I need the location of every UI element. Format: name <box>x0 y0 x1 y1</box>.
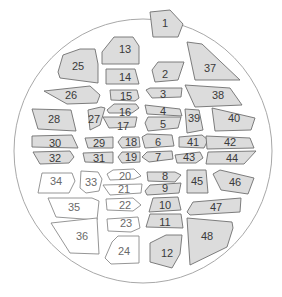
numbered-region-map: 1234567891011121314151617181920212223242… <box>0 0 282 297</box>
region-5: 5 <box>145 117 181 131</box>
region-32: 32 <box>33 151 74 164</box>
region-label: 2 <box>162 68 168 80</box>
regions-layer: 1234567891011121314151617181920212223242… <box>32 10 256 268</box>
region-24: 24 <box>105 236 139 264</box>
region-label: 20 <box>119 170 131 182</box>
region-label: 17 <box>117 120 129 132</box>
region-label: 5 <box>160 118 166 130</box>
region-label: 3 <box>160 88 166 100</box>
region-label: 35 <box>68 201 80 213</box>
region-14: 14 <box>106 69 139 84</box>
region-40: 40 <box>212 108 255 131</box>
region-label: 24 <box>118 245 130 257</box>
region-label: 47 <box>210 201 222 213</box>
region-23: 23 <box>107 217 140 232</box>
region-1: 1 <box>150 10 183 37</box>
map-canvas: 1234567891011121314151617181920212223242… <box>0 0 282 297</box>
region-46: 46 <box>213 170 254 194</box>
region-label: 6 <box>155 136 161 148</box>
region-label: 15 <box>120 90 132 102</box>
region-label: 16 <box>119 106 131 118</box>
region-label: 40 <box>228 112 240 124</box>
region-label: 26 <box>65 89 77 101</box>
region-35: 35 <box>48 198 99 220</box>
region-13: 13 <box>102 37 139 64</box>
region-45: 45 <box>187 170 208 193</box>
region-10: 10 <box>149 197 181 212</box>
region-34: 34 <box>38 173 75 193</box>
region-3: 3 <box>146 88 182 100</box>
region-15: 15 <box>110 90 139 102</box>
region-label: 11 <box>159 216 170 228</box>
region-label: 8 <box>162 170 168 182</box>
region-label: 33 <box>85 176 97 188</box>
region-label: 29 <box>93 137 105 149</box>
region-label: 4 <box>160 105 166 117</box>
region-label: 30 <box>49 137 61 149</box>
region-label: 23 <box>120 217 132 229</box>
region-label: 37 <box>204 62 216 74</box>
region-25: 25 <box>58 49 98 83</box>
region-label: 7 <box>155 151 161 163</box>
region-label: 46 <box>229 176 241 188</box>
region-label: 39 <box>188 112 200 124</box>
region-12: 12 <box>150 235 182 268</box>
region-36: 36 <box>51 218 99 254</box>
region-28: 28 <box>32 109 76 131</box>
region-label: 19 <box>125 151 137 163</box>
region-22: 22 <box>106 198 141 211</box>
region-6: 6 <box>142 134 174 148</box>
region-43: 43 <box>175 151 203 163</box>
region-label: 9 <box>162 182 168 194</box>
region-label: 27 <box>88 113 100 125</box>
outer-circle-boundary <box>14 19 272 283</box>
region-48: 48 <box>187 218 233 265</box>
region-37: 37 <box>187 42 240 80</box>
region-2: 2 <box>152 62 184 82</box>
region-19: 19 <box>118 151 140 163</box>
region-8: 8 <box>147 170 181 182</box>
region-label: 28 <box>48 113 60 125</box>
region-20: 20 <box>107 169 141 182</box>
region-label: 12 <box>161 247 173 259</box>
region-26: 26 <box>44 86 100 104</box>
region-29: 29 <box>85 137 113 149</box>
region-label: 1 <box>162 17 168 29</box>
region-label: 38 <box>212 89 224 101</box>
region-33: 33 <box>80 171 102 193</box>
region-41: 41 <box>179 135 208 148</box>
region-47: 47 <box>187 198 241 215</box>
region-16: 16 <box>107 104 139 118</box>
region-18: 18 <box>118 136 140 148</box>
region-38: 38 <box>185 85 242 107</box>
region-label: 14 <box>119 71 131 83</box>
region-label: 22 <box>119 199 131 211</box>
region-shape <box>187 42 240 80</box>
region-label: 21 <box>118 183 130 195</box>
region-label: 18 <box>125 136 137 148</box>
region-21: 21 <box>103 183 142 195</box>
region-label: 45 <box>191 175 203 187</box>
region-label: 42 <box>224 136 236 148</box>
region-39: 39 <box>185 109 203 133</box>
region-30: 30 <box>32 135 78 149</box>
region-label: 13 <box>119 43 131 55</box>
region-label: 25 <box>72 60 84 72</box>
region-7: 7 <box>142 151 173 163</box>
region-label: 31 <box>93 152 105 164</box>
region-label: 44 <box>226 152 238 164</box>
region-4: 4 <box>145 105 182 117</box>
region-label: 43 <box>183 151 195 163</box>
region-label: 32 <box>49 152 61 164</box>
region-27: 27 <box>88 107 105 130</box>
region-label: 41 <box>187 136 199 148</box>
region-44: 44 <box>206 151 256 164</box>
region-31: 31 <box>83 152 113 164</box>
region-label: 10 <box>159 199 171 211</box>
region-42: 42 <box>206 136 254 149</box>
region-label: 48 <box>201 230 213 242</box>
region-11: 11 <box>146 214 183 228</box>
region-17: 17 <box>103 117 137 132</box>
region-label: 34 <box>50 175 62 187</box>
region-label: 36 <box>76 230 88 242</box>
